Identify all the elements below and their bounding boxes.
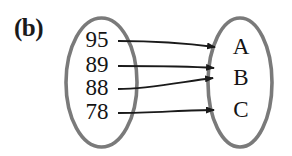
range-value-c: C <box>233 97 248 123</box>
mapping-arrow-88-B <box>118 78 213 89</box>
domain-value-88: 88 <box>86 75 109 101</box>
domain-value-95: 95 <box>86 27 109 53</box>
mapping-diagram-figure: (b) 95 89 88 78 A B C <box>0 0 292 156</box>
range-value-b: B <box>233 65 248 91</box>
domain-value-78: 78 <box>86 99 109 125</box>
figure-label: (b) <box>14 14 43 42</box>
range-value-a: A <box>233 34 250 60</box>
mapping-arrow-89-B <box>118 66 214 68</box>
